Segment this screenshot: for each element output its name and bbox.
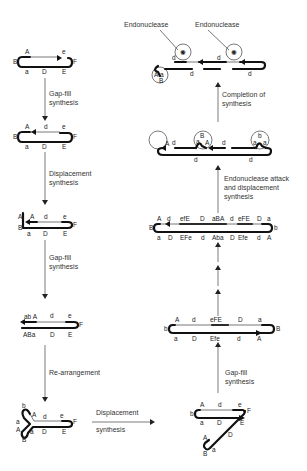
svg-text:D: D	[230, 234, 235, 241]
svg-text:Displacement: Displacement	[96, 409, 138, 417]
svg-text:ab A: ab A	[24, 313, 38, 320]
svg-text:d: d	[257, 234, 261, 241]
svg-text:synthesis: synthesis	[224, 193, 254, 201]
svg-text:D: D	[257, 215, 262, 222]
svg-text:e: e	[63, 213, 67, 220]
structure-right-row2: A d eFE D a b B a D Efe d A	[164, 316, 280, 342]
svg-text:B: B	[13, 58, 17, 65]
svg-text:D: D	[217, 419, 222, 426]
svg-text:B: B	[276, 325, 280, 332]
svg-text:synthesis: synthesis	[222, 100, 252, 108]
svg-text:a: a	[27, 230, 31, 237]
svg-text:e: e	[60, 412, 64, 419]
svg-text:E: E	[62, 428, 67, 435]
svg-text:a: a	[258, 316, 262, 323]
svg-text:F: F	[73, 58, 77, 65]
svg-text:d: d	[44, 213, 48, 220]
svg-text:B: B	[13, 133, 17, 140]
replication-diagram: A e B F a D E Gap-fill synthesis A d e B…	[0, 0, 307, 471]
svg-text:efE: efE	[180, 215, 190, 222]
structure-4: ab A d e F ABa D E	[20, 312, 83, 338]
svg-text:B: B	[159, 77, 163, 84]
svg-text:A: A	[16, 426, 21, 433]
svg-text:b: b	[190, 410, 194, 417]
svg-text:E: E	[63, 230, 68, 237]
svg-text:D: D	[43, 230, 48, 237]
svg-text:B: B	[200, 132, 204, 139]
svg-text:F: F	[247, 407, 251, 414]
structure-1: A e B F a D E	[13, 48, 77, 75]
svg-text:F: F	[73, 221, 77, 228]
svg-text:d: d	[192, 316, 196, 323]
svg-text:synthesis: synthesis	[225, 378, 255, 386]
svg-text:D: D	[42, 428, 47, 435]
svg-text:d: d	[172, 139, 176, 146]
svg-text:EFe: EFe	[180, 234, 192, 241]
svg-text:A: A	[267, 234, 272, 241]
svg-text:A: A	[157, 215, 162, 222]
svg-text:a: a	[16, 418, 20, 425]
svg-text:d: d	[194, 156, 198, 163]
svg-text:a: a	[267, 215, 271, 222]
svg-text:d: d	[230, 215, 234, 222]
svg-text:a: a	[196, 138, 200, 145]
svg-text:synthesis: synthesis	[49, 99, 79, 107]
svg-text:A: A	[257, 335, 262, 342]
svg-text:a: a	[25, 68, 29, 75]
svg-text:D: D	[192, 335, 197, 342]
svg-text:eFE: eFE	[210, 316, 223, 323]
svg-text:a: a	[253, 139, 257, 146]
svg-text:b: b	[258, 132, 262, 139]
svg-text:D: D	[168, 234, 173, 241]
svg-text:Displacement: Displacement	[49, 170, 91, 178]
svg-text:aBA: aBA	[212, 215, 225, 222]
svg-text:A: A	[165, 140, 170, 147]
svg-text:d: d	[50, 312, 54, 319]
svg-text:Gap-fill: Gap-fill	[49, 254, 72, 262]
structure-right-row4: A d B a A d b a a d d	[149, 131, 271, 163]
svg-text:Efe: Efe	[210, 335, 220, 342]
endonuclease-label-2: Endonuclease	[195, 21, 239, 28]
svg-text:d: d	[201, 234, 205, 241]
svg-text:D: D	[42, 143, 47, 150]
svg-text:A: A	[175, 316, 180, 323]
svg-text:d: d	[172, 54, 176, 61]
svg-text:Efe: Efe	[238, 234, 248, 241]
svg-text:a: a	[174, 335, 178, 342]
svg-text:B: B	[18, 224, 22, 231]
svg-text:and displacement: and displacement	[224, 184, 279, 192]
svg-text:b: b	[164, 325, 168, 332]
structure-right-bottom: A d e b F a D E D A a B	[190, 401, 251, 457]
svg-text:synthesis: synthesis	[49, 179, 79, 187]
label-A: A	[25, 48, 30, 55]
svg-text:d: d	[222, 139, 226, 146]
structure-right-row3: A d efE D aBA d eFE D a B b a D EFe d Ab…	[149, 215, 278, 241]
svg-text:d: d	[218, 401, 222, 408]
svg-text:e: e	[62, 123, 66, 130]
svg-text:A: A	[203, 434, 208, 441]
svg-text:e: e	[68, 312, 72, 319]
svg-text:d: d	[44, 123, 48, 130]
svg-text:A: A	[205, 139, 210, 146]
structure-right-top: ✺ ✺ d d d d A a B	[152, 30, 265, 84]
structure-3: A A d e B F a D E	[18, 213, 77, 237]
svg-text:✺: ✺	[180, 49, 186, 56]
svg-text:B: B	[149, 224, 153, 231]
svg-text:D: D	[50, 331, 55, 338]
svg-text:b: b	[274, 224, 278, 231]
svg-text:ABa: ABa	[23, 331, 36, 338]
svg-text:e: e	[238, 401, 242, 408]
svg-text:Aba: Aba	[212, 234, 224, 241]
svg-text:a: a	[200, 419, 204, 426]
svg-text:D: D	[228, 431, 233, 438]
svg-text:✺: ✺	[231, 49, 237, 56]
svg-text:D: D	[200, 215, 205, 222]
svg-text:d: d	[248, 70, 252, 77]
svg-text:a: a	[212, 446, 216, 453]
svg-text:d: d	[43, 413, 47, 420]
svg-text:b: b	[22, 402, 26, 409]
svg-text:a: a	[157, 234, 161, 241]
svg-text:A: A	[30, 213, 35, 220]
svg-text:F: F	[73, 418, 77, 425]
svg-text:E: E	[68, 331, 73, 338]
